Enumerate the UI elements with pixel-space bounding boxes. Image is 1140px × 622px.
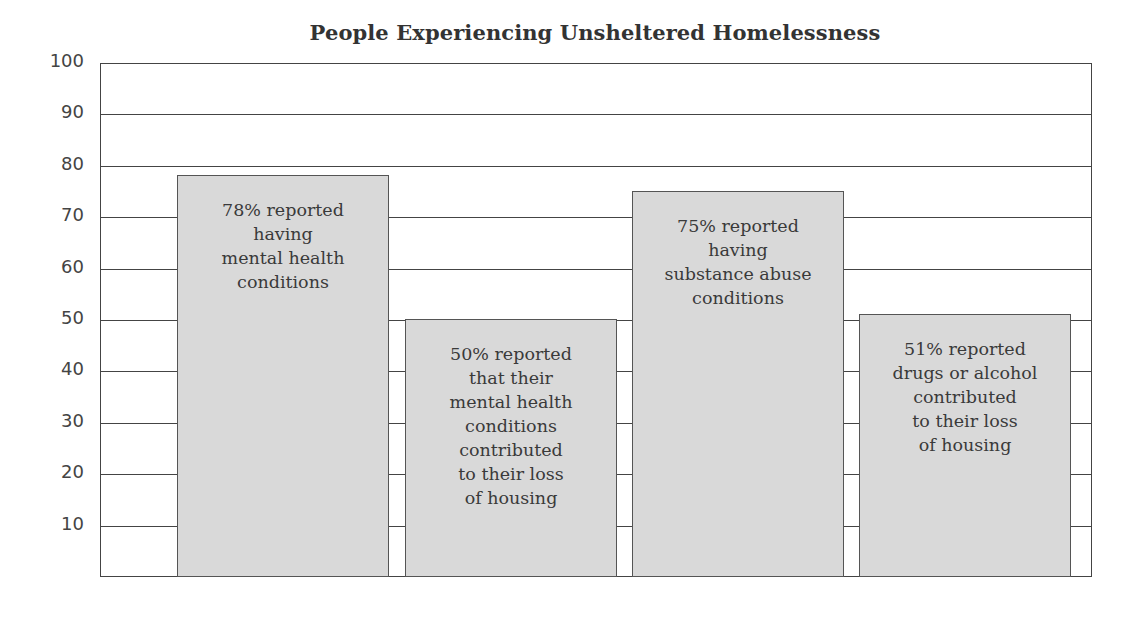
- y-tick-label: 80: [0, 153, 84, 174]
- bar-label: 50% reported that their mental health co…: [450, 342, 573, 576]
- bar: 75% reported having substance abuse cond…: [632, 191, 844, 578]
- bar: 51% reported drugs or alcohol contribute…: [859, 314, 1071, 577]
- plot-area: 78% reported having mental health condit…: [100, 63, 1092, 577]
- bar: 50% reported that their mental health co…: [405, 319, 617, 577]
- bar: 78% reported having mental health condit…: [177, 175, 389, 577]
- gridline: [101, 166, 1091, 167]
- bar-label: 78% reported having mental health condit…: [222, 198, 345, 576]
- y-tick-label: 30: [0, 410, 84, 431]
- y-tick-label: 50: [0, 307, 84, 328]
- y-tick-label: 60: [0, 256, 84, 277]
- y-tick-label: 90: [0, 101, 84, 122]
- chart-title: People Experiencing Unsheltered Homeless…: [0, 20, 1140, 45]
- y-tick-label: 40: [0, 358, 84, 379]
- y-tick-label: 10: [0, 513, 84, 534]
- bar-label: 75% reported having substance abuse cond…: [664, 214, 811, 577]
- bar-label: 51% reported drugs or alcohol contribute…: [893, 337, 1038, 576]
- y-tick-label: 20: [0, 461, 84, 482]
- gridline: [101, 114, 1091, 115]
- y-tick-label: 100: [0, 50, 84, 71]
- y-tick-label: 70: [0, 204, 84, 225]
